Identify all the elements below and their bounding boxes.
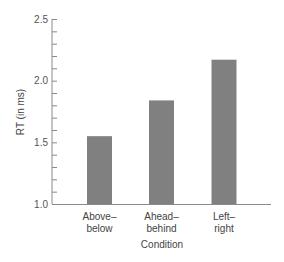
bar <box>149 100 174 204</box>
y-tick-label: 1.0 <box>34 199 48 210</box>
y-axis-title: RT (in ms) <box>15 89 26 135</box>
bar <box>87 136 112 204</box>
y-axis: 1.01.52.02.5 <box>34 14 57 210</box>
category-label: behind <box>146 223 176 234</box>
category-labels: Above–belowAhead–behindLeft–right <box>83 211 236 234</box>
category-label: below <box>86 223 113 234</box>
category-label: Left– <box>213 211 236 222</box>
x-axis-title: Condition <box>141 239 183 250</box>
bars <box>87 60 237 204</box>
category-label: Ahead– <box>144 211 179 222</box>
category-label: right <box>214 223 234 234</box>
y-tick-label: 1.5 <box>34 137 48 148</box>
category-label: Above– <box>83 211 117 222</box>
bar-chart: 1.01.52.02.5 Above–belowAhead–behindLeft… <box>0 0 284 262</box>
y-tick-label: 2.0 <box>34 75 48 86</box>
y-tick-label: 2.5 <box>34 14 48 25</box>
bar <box>212 60 237 204</box>
